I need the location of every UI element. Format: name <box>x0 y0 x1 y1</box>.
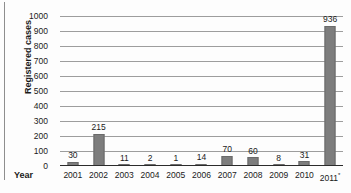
page-edge-artifact <box>4 2 5 180</box>
y-axis-tick-label: 600 <box>14 72 48 80</box>
bar-slot[interactable]: 14 <box>189 16 215 166</box>
x-axis-tick-label: 2001 <box>60 170 86 180</box>
y-axis-tick-label: 500 <box>14 87 48 95</box>
x-axis-tick-label: 2003 <box>111 170 137 180</box>
y-axis-tick-label: 400 <box>14 102 48 110</box>
plot-area: 10009008007006005004003002001000 3021511… <box>60 16 343 166</box>
x-axis-tick-label: 2006 <box>189 170 215 180</box>
y-axis-tick-label: 100 <box>14 147 48 155</box>
bar-chart-figure: Registered cases Year 100090080070060050… <box>0 0 351 193</box>
bar-slot[interactable]: 30 <box>60 16 86 166</box>
y-axis-tick-label: 900 <box>14 27 48 35</box>
x-axis-tick-label: 2005 <box>163 170 189 180</box>
bar-slot[interactable]: 31 <box>292 16 318 166</box>
bar-value-label: 215 <box>91 123 105 132</box>
bar-slot[interactable]: 936 <box>317 16 343 166</box>
bar-value-label: 936 <box>323 15 337 24</box>
bar[interactable] <box>93 134 104 166</box>
bar-slot[interactable]: 215 <box>86 16 112 166</box>
bar-slot[interactable]: 2 <box>137 16 163 166</box>
y-axis-tick-label: 800 <box>14 42 48 50</box>
bar[interactable] <box>325 26 336 166</box>
y-axis-tick-label: 1000 <box>14 12 48 20</box>
bar-value-label: 60 <box>248 147 257 156</box>
bar-slot[interactable]: 70 <box>214 16 240 166</box>
x-axis-tick-label: 2007 <box>214 170 240 180</box>
bar-slot[interactable]: 1 <box>163 16 189 166</box>
bar-value-label: 11 <box>120 154 129 163</box>
bar-slot[interactable]: 11 <box>111 16 137 166</box>
y-axis-tick-label: 0 <box>14 162 48 170</box>
bar-value-label: 70 <box>222 145 231 154</box>
y-axis-tick-label: 200 <box>14 132 48 140</box>
bar-slot[interactable]: 60 <box>240 16 266 166</box>
x-axis-line <box>60 165 343 167</box>
bar-value-label: 1 <box>173 154 178 163</box>
bar-value-label: 31 <box>300 151 309 160</box>
x-axis-tick-label: 2010 <box>292 170 318 180</box>
bar-value-label: 30 <box>68 151 77 160</box>
x-axis-tick-label: 2009 <box>266 170 292 180</box>
x-axis-tick-label: 2004 <box>137 170 163 180</box>
bar-slot[interactable]: 8 <box>266 16 292 166</box>
x-axis-tick-label: 2002 <box>86 170 112 180</box>
bar-value-label: 8 <box>276 154 281 163</box>
x-axis-tick-label: 2008 <box>240 170 266 180</box>
bar-value-label: 14 <box>197 153 206 162</box>
y-axis-tick-label: 300 <box>14 117 48 125</box>
bar-value-label: 2 <box>148 154 153 163</box>
x-axis-tick-label: 2011* <box>317 170 343 183</box>
y-axis-tick-label: 700 <box>14 57 48 65</box>
x-axis-title: Year <box>14 170 33 180</box>
